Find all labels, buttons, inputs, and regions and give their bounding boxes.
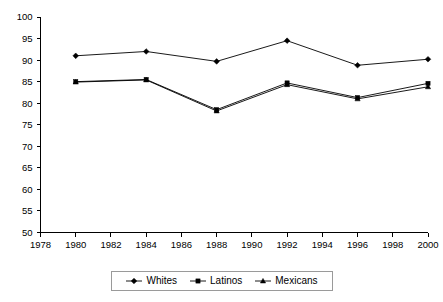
- y-axis-tick-marks: [37, 17, 41, 233]
- x-tick-label: 1980: [65, 239, 86, 250]
- data-point-diamond-marker-icon: [355, 62, 361, 68]
- data-point-diamond-marker-icon: [214, 59, 220, 65]
- x-tick-label: 1998: [382, 239, 403, 250]
- x-tick-label: 1982: [100, 239, 121, 250]
- y-tick-label: 85: [22, 76, 33, 87]
- triangle-marker-icon: [255, 276, 271, 286]
- series-mexicans: [73, 77, 431, 113]
- legend-item-label: Mexicans: [275, 276, 317, 286]
- legend-item-mexicans[interactable]: Mexicans: [255, 276, 317, 286]
- y-tick-label: 80: [22, 98, 33, 109]
- series-latinos: [74, 77, 430, 111]
- x-axis-tick-labels: 1978198019821984198619881990199219941996…: [30, 239, 439, 250]
- diamond-marker-icon: [126, 276, 142, 286]
- data-series-layer: [73, 38, 431, 113]
- data-point-diamond-marker-icon: [143, 49, 149, 55]
- x-tick-label: 2000: [417, 239, 438, 250]
- square-marker-icon: [190, 276, 206, 286]
- x-tick-label: 1978: [30, 239, 51, 250]
- legend-item-whites[interactable]: Whites: [126, 276, 177, 286]
- x-axis-tick-marks: [41, 233, 429, 237]
- data-point-diamond-marker-icon: [284, 38, 290, 44]
- y-tick-label: 95: [22, 33, 33, 44]
- legend-item-latinos[interactable]: Latinos: [190, 276, 242, 286]
- x-tick-label: 1992: [277, 239, 298, 250]
- x-tick-label: 1986: [171, 239, 192, 250]
- series-line: [76, 80, 428, 110]
- plot-area: 50556065707580859095100 1978198019821984…: [0, 0, 443, 302]
- data-point-diamond-marker-icon: [73, 53, 79, 59]
- series-whites: [73, 38, 431, 68]
- x-tick-label: 1990: [241, 239, 262, 250]
- y-tick-label: 75: [22, 119, 33, 130]
- legend-item-label: Whites: [146, 276, 177, 286]
- y-tick-label: 60: [22, 184, 33, 195]
- y-tick-label: 100: [17, 11, 33, 22]
- x-tick-label: 1996: [347, 239, 368, 250]
- y-tick-label: 50: [22, 227, 33, 238]
- legend-item-label: Latinos: [210, 276, 242, 286]
- x-tick-label: 1994: [312, 239, 333, 250]
- x-tick-label: 1984: [136, 239, 157, 250]
- series-line: [76, 80, 428, 111]
- chart-legend: WhitesLatinosMexicans: [111, 271, 333, 291]
- y-tick-label: 90: [22, 55, 33, 66]
- series-line: [76, 41, 428, 66]
- x-tick-label: 1988: [206, 239, 227, 250]
- y-tick-label: 65: [22, 162, 33, 173]
- line-chart: 50556065707580859095100 1978198019821984…: [0, 0, 443, 302]
- data-point-diamond-marker-icon: [425, 56, 431, 62]
- y-axis-tick-labels: 50556065707580859095100: [17, 11, 33, 238]
- y-tick-label: 70: [22, 141, 33, 152]
- y-tick-label: 55: [22, 205, 33, 216]
